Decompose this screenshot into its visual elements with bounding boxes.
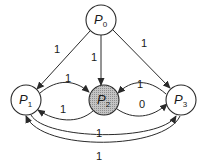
node-p2-label: P — [97, 92, 106, 107]
node-p3-label: P — [174, 92, 183, 107]
node-p0-label: P — [94, 12, 103, 27]
edge-p0-p2: 1 — [91, 35, 101, 85]
edge-weight-p0-p2: 1 — [91, 51, 97, 63]
edge-weight-p0-p1: 1 — [54, 43, 60, 55]
node-p3-sub: 3 — [183, 100, 188, 109]
node-p1-sub: 1 — [28, 100, 33, 109]
edge-weight-p1-p2: 1 — [65, 72, 71, 84]
edge-p2-p3: 0 — [117, 98, 167, 116]
node-p1: P1 — [11, 85, 41, 115]
node-p2: P2 — [89, 85, 119, 115]
edge-weight-p2-p1: 1 — [60, 103, 66, 115]
edge-weight-p3-p1: 1 — [96, 150, 102, 162]
edge-p0-p1: 1 — [37, 31, 90, 89]
edge-p3-p2: 1 — [118, 78, 166, 94]
node-p3: P3 — [166, 85, 196, 115]
node-p0-sub: 0 — [103, 20, 108, 29]
edge-weight-p1-p3: 1 — [96, 127, 102, 139]
node-p0: P0 — [86, 5, 116, 35]
edge-weight-p0-p3: 1 — [141, 37, 147, 49]
edge-p2-p1: 1 — [38, 103, 93, 120]
edge-p1-p2: 1 — [40, 72, 89, 93]
node-p1-label: P — [19, 92, 28, 107]
edge-weight-p3-p2: 1 — [137, 78, 143, 90]
edge-weight-p2-p3: 0 — [139, 98, 145, 110]
edge-p3-p1: 1 — [26, 116, 180, 162]
node-p2-sub: 2 — [106, 100, 111, 109]
graph-diagram: 1 1 1 1 1 1 0 1 1 P0 P1 P2 — [0, 0, 209, 168]
